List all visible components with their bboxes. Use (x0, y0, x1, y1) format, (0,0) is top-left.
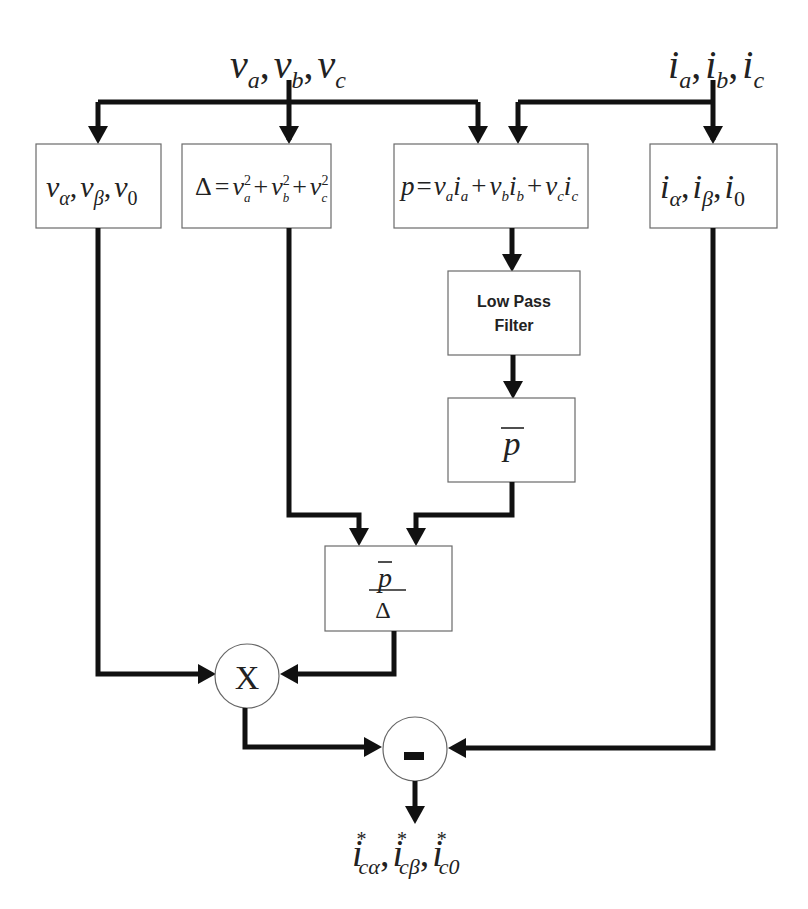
ratio-block: p Δ (325, 546, 452, 631)
minus-icon (404, 752, 424, 760)
svg-text:p=vaia+vbib+vcic: p=vaia+vbib+vcic (399, 171, 578, 204)
svg-text:p: p (376, 562, 392, 593)
v-alpha-beta-block: vα,vβ,v0 (36, 144, 161, 228)
svg-text:p: p (502, 425, 521, 462)
i-alpha-beta-block: iα,iβ,i0 (650, 144, 777, 228)
ratio-to-multiplier-wire (280, 631, 394, 684)
svg-text:X: X (235, 659, 260, 696)
delta-to-ratio-wire (289, 228, 369, 546)
delta-block: Δ=v2a+v2b+v2c (182, 144, 331, 228)
pbar-to-ratio-wire (406, 482, 512, 546)
multiplier-to-subtractor-wire (245, 708, 382, 757)
svg-text:Low Pass: Low Pass (477, 293, 551, 310)
p-bar-block: p (448, 398, 575, 482)
power-to-lpf-arrow (502, 228, 522, 272)
svg-text:Δ: Δ (375, 597, 390, 623)
voltage-bus (88, 80, 488, 144)
power-block: p=vaia+vbib+vcic (394, 144, 588, 228)
low-pass-filter-block: Low Pass Filter (448, 271, 580, 355)
subtractor-to-output-arrow (405, 781, 425, 824)
output-label: i*cα,i*cβ,i*c0 (352, 828, 460, 879)
svg-text:ia,ib,ic: ia,ib,ic (668, 42, 764, 93)
multiplier-node: X (215, 644, 279, 708)
svg-text:i*cα,i*cβ,i*c0: i*cα,i*cβ,i*c0 (352, 828, 460, 879)
input-currents-label: ia,ib,ic (668, 42, 764, 93)
lpf-to-pbar-arrow (503, 355, 523, 399)
v-transform-to-multiplier-wire (98, 228, 216, 684)
subtractor-node (383, 717, 447, 781)
block-diagram: va,vb,vc ia,ib,ic vα,vβ,v0 Δ=v2a+v2b+v2 (0, 0, 808, 909)
svg-text:Filter: Filter (494, 317, 533, 334)
